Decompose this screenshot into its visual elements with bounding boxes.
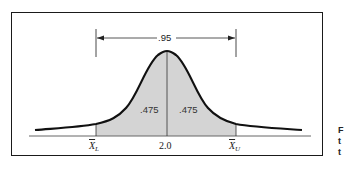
arrowhead-right-icon (228, 36, 235, 41)
interval-label: .95 (158, 33, 171, 43)
left-area-label: .475 (140, 105, 159, 115)
arrowhead-left-icon (97, 36, 104, 41)
lower-bound-subscript: L (95, 145, 99, 153)
shaded-confidence-region (96, 51, 236, 136)
upper-bound-label: XU (229, 141, 240, 153)
side-text-line-1: F (338, 126, 344, 135)
side-text-line-2: t (338, 137, 341, 146)
right-area-label: .475 (179, 105, 198, 115)
upper-bound-subscript: U (235, 145, 240, 153)
side-text-line-3: t (338, 148, 341, 157)
center-value-label: 2.0 (159, 141, 172, 151)
lower-bound-label: XL (89, 141, 99, 153)
